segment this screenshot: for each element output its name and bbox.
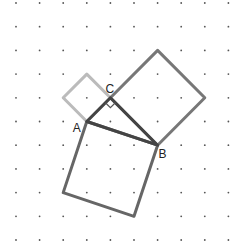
- grid-dot: [157, 239, 159, 241]
- grid-dot: [133, 50, 135, 52]
- grid-dot: [157, 2, 159, 4]
- grid-dot: [228, 73, 230, 75]
- grid-dot: [204, 168, 206, 170]
- grid-dot: [204, 144, 206, 146]
- grid-dot: [180, 144, 182, 146]
- grid-dot: [15, 239, 17, 241]
- grid-dot: [133, 192, 135, 194]
- grid-dot: [228, 144, 230, 146]
- pythagorean-diagram: A B C: [0, 0, 236, 248]
- right-angle-marker: [105, 103, 115, 108]
- grid-dot: [39, 215, 41, 217]
- grid-dot: [110, 121, 112, 123]
- grid-dot: [110, 192, 112, 194]
- grid-dot: [39, 168, 41, 170]
- grid-dot: [180, 239, 182, 241]
- grid-dot: [110, 50, 112, 52]
- grid-dot: [204, 26, 206, 28]
- grid-dot: [15, 215, 17, 217]
- grid-dot: [62, 50, 64, 52]
- grid-dot: [228, 192, 230, 194]
- grid-dot: [62, 26, 64, 28]
- grid-dot: [39, 192, 41, 194]
- squares-group: [63, 50, 205, 216]
- grid-dot: [15, 121, 17, 123]
- grid-dot: [39, 50, 41, 52]
- grid-dot: [180, 215, 182, 217]
- label-b: B: [159, 147, 167, 161]
- grid-dot: [15, 168, 17, 170]
- grid-dot: [39, 73, 41, 75]
- grid-dot: [86, 144, 88, 146]
- grid-dot: [157, 97, 159, 99]
- grid-dot: [157, 168, 159, 170]
- label-c: C: [105, 82, 114, 96]
- grid-dot: [62, 121, 64, 123]
- grid-dot: [180, 26, 182, 28]
- grid-dot: [62, 239, 64, 241]
- grid-dot: [180, 192, 182, 194]
- grid-dot: [204, 192, 206, 194]
- grid-dot: [110, 239, 112, 241]
- grid-dot: [15, 2, 17, 4]
- grid-dot: [15, 73, 17, 75]
- grid-dot: [133, 2, 135, 4]
- grid-dot: [86, 215, 88, 217]
- grid-dot: [204, 50, 206, 52]
- grid-dot: [204, 239, 206, 241]
- grid-dot: [110, 144, 112, 146]
- grid-dot: [110, 215, 112, 217]
- grid-dot: [228, 121, 230, 123]
- grid-dot: [62, 168, 64, 170]
- grid-dot: [86, 168, 88, 170]
- right-angle-icon: [105, 103, 115, 108]
- grid-dot: [204, 121, 206, 123]
- grid-dot: [204, 73, 206, 75]
- grid-dot: [228, 215, 230, 217]
- grid-dot: [157, 73, 159, 75]
- grid-dot: [62, 144, 64, 146]
- grid-dot: [39, 26, 41, 28]
- grid-dot: [133, 144, 135, 146]
- grid-dot: [157, 121, 159, 123]
- grid-dot: [110, 168, 112, 170]
- dot-grid: [15, 2, 229, 241]
- grid-dot: [204, 2, 206, 4]
- grid-dot: [180, 97, 182, 99]
- grid-dot: [157, 26, 159, 28]
- grid-dot: [86, 192, 88, 194]
- grid-dot: [15, 144, 17, 146]
- triangle-outline: [87, 98, 158, 145]
- grid-dot: [86, 239, 88, 241]
- grid-dot: [228, 2, 230, 4]
- grid-dot: [110, 26, 112, 28]
- grid-dot: [62, 215, 64, 217]
- grid-dot: [133, 26, 135, 28]
- label-a: A: [73, 121, 81, 135]
- grid-dot: [15, 192, 17, 194]
- grid-dot: [133, 168, 135, 170]
- grid-dot: [62, 2, 64, 4]
- grid-dot: [39, 239, 41, 241]
- grid-dot: [228, 50, 230, 52]
- grid-dot: [180, 168, 182, 170]
- grid-dot: [157, 215, 159, 217]
- grid-dot: [133, 97, 135, 99]
- triangle-abc: [87, 98, 158, 145]
- grid-dot: [110, 73, 112, 75]
- grid-dot: [110, 2, 112, 4]
- grid-dot: [62, 73, 64, 75]
- grid-dot: [86, 26, 88, 28]
- grid-dot: [39, 97, 41, 99]
- grid-dot: [228, 168, 230, 170]
- grid-dot: [15, 50, 17, 52]
- grid-dot: [15, 26, 17, 28]
- grid-dot: [86, 50, 88, 52]
- grid-dot: [86, 2, 88, 4]
- grid-dot: [39, 144, 41, 146]
- grid-dot: [39, 2, 41, 4]
- grid-dot: [39, 121, 41, 123]
- grid-dot: [204, 215, 206, 217]
- grid-dot: [180, 2, 182, 4]
- grid-dot: [86, 97, 88, 99]
